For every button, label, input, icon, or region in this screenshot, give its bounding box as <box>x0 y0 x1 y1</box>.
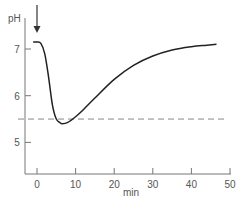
x-axis-label: min <box>123 187 139 198</box>
ph-curve <box>33 42 216 124</box>
y-axis-label: pH <box>8 13 21 24</box>
axis-ticks <box>25 49 230 174</box>
svg-text:40: 40 <box>186 179 198 190</box>
svg-text:20: 20 <box>109 179 121 190</box>
ph-time-chart: 01020304050567 pH min <box>0 0 246 207</box>
svg-text:7: 7 <box>14 44 20 55</box>
arrow-down-icon <box>34 5 41 33</box>
svg-text:10: 10 <box>70 179 82 190</box>
svg-text:6: 6 <box>14 91 20 102</box>
svg-text:5: 5 <box>14 137 20 148</box>
svg-text:50: 50 <box>224 179 236 190</box>
svg-text:0: 0 <box>34 179 40 190</box>
svg-text:30: 30 <box>147 179 159 190</box>
